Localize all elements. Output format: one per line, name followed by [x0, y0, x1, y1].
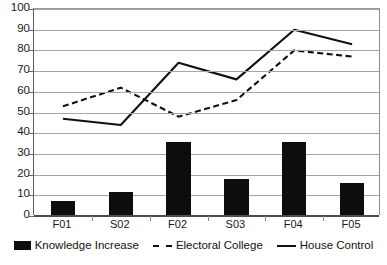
y-axis-label-40: 40: [0, 126, 30, 138]
y-axis-label-20: 20: [0, 168, 30, 180]
x-axis-label-f05: F05: [342, 219, 361, 230]
gridline-100: [34, 9, 379, 10]
gridline-60: [34, 92, 379, 93]
bar-f04: [282, 142, 306, 215]
y-axis-label-100: 100: [0, 2, 30, 14]
gridline-90: [34, 30, 379, 31]
x-axis-tick-3: [208, 216, 209, 221]
gridline-50: [34, 113, 379, 114]
x-axis-tick-4: [265, 216, 266, 221]
y-axis-label-70: 70: [0, 64, 30, 76]
bar-s03: [224, 179, 248, 215]
y-axis-label-10: 10: [0, 188, 30, 200]
bar-f05: [340, 183, 364, 215]
y-axis-label-60: 60: [0, 85, 30, 97]
chart-container: Knowledge IncreaseElectoral CollegeHouse…: [0, 0, 387, 265]
x-axis-tick-5: [323, 216, 324, 221]
plot-area: [33, 8, 380, 215]
x-axis-tick-1: [92, 216, 93, 221]
y-axis-label-90: 90: [0, 23, 30, 35]
line-series-house-control: [63, 30, 352, 125]
chart-legend: Knowledge IncreaseElectoral CollegeHouse…: [0, 240, 387, 252]
bar-f02: [166, 142, 190, 215]
x-axis-label-f04: F04: [284, 219, 303, 230]
bar-swatch-icon: [14, 241, 31, 250]
gridline-20: [34, 175, 379, 176]
gridline-10: [34, 195, 379, 196]
line-series-electoral-college: [63, 50, 352, 116]
x-axis-label-s03: S03: [226, 219, 246, 230]
gridline-70: [34, 71, 379, 72]
legend-item-electoral-college[interactable]: Electoral College: [153, 240, 263, 252]
y-axis-label-80: 80: [0, 43, 30, 55]
y-axis-label-30: 30: [0, 147, 30, 159]
gridline-0: [34, 215, 379, 217]
legend-label: Electoral College: [176, 240, 263, 252]
y-axis-label-0: 0: [0, 209, 30, 221]
legend-item-house-control[interactable]: House Control: [277, 240, 374, 252]
legend-label: House Control: [300, 240, 374, 252]
legend-item-knowledge-increase[interactable]: Knowledge Increase: [14, 240, 139, 252]
dashed-line-icon: [153, 241, 172, 250]
x-axis-label-f01: F01: [52, 219, 71, 230]
x-axis-tick-2: [150, 216, 151, 221]
legend-label: Knowledge Increase: [35, 240, 139, 252]
x-axis-label-s02: S02: [110, 219, 130, 230]
bar-f01: [51, 201, 75, 215]
gridline-80: [34, 50, 379, 51]
x-axis-label-f02: F02: [168, 219, 187, 230]
gridline-40: [34, 133, 379, 134]
solid-line-icon: [277, 241, 296, 250]
bar-s02: [109, 192, 133, 215]
y-axis-label-50: 50: [0, 106, 30, 118]
gridline-30: [34, 154, 379, 155]
